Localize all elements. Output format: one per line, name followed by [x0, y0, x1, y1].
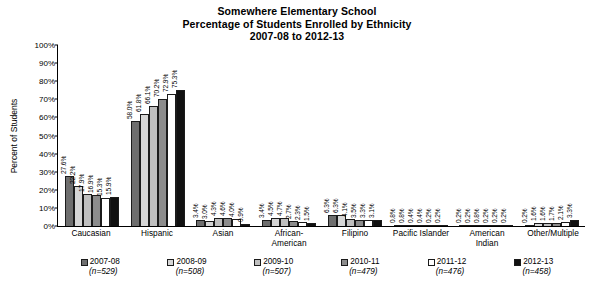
y-axis-tick-label: 100%	[21, 41, 55, 50]
x-axis-label: Asian	[190, 229, 256, 248]
bar[interactable]	[298, 222, 307, 226]
bar-slot: 3.0%	[205, 45, 214, 226]
bar-slot: 3.1%	[373, 45, 382, 226]
legend-swatch-icon	[428, 259, 435, 266]
bar[interactable]	[355, 220, 364, 226]
bar[interactable]	[241, 224, 250, 226]
bar[interactable]	[158, 99, 167, 226]
bar[interactable]	[131, 121, 140, 226]
bar[interactable]	[110, 197, 119, 226]
legend-item[interactable]: 2007-08(n=529)	[57, 257, 144, 277]
bar[interactable]	[561, 222, 570, 226]
bar-group: 0.8%0.8%0.4%0.4%0.2%0.2%	[388, 45, 454, 226]
bar[interactable]	[328, 215, 337, 226]
bar-value-label: 6.3%	[332, 198, 339, 213]
bar[interactable]	[394, 225, 403, 226]
bar[interactable]	[430, 225, 439, 226]
bar[interactable]	[504, 225, 513, 226]
bar[interactable]	[140, 114, 149, 226]
bar[interactable]	[307, 223, 316, 226]
bar[interactable]	[439, 225, 448, 226]
legend-swatch-icon	[341, 259, 348, 266]
legend-item[interactable]: 2009-10(n=507)	[230, 257, 317, 277]
bar[interactable]	[495, 225, 504, 226]
bars: 3.4%3.0%4.3%4.6%4.0%0.9%	[191, 45, 257, 226]
ethnicity-enrollment-bar-chart: Somewhere Elementary School Percentage o…	[0, 0, 594, 295]
legend-item[interactable]: 2012-13(n=458)	[490, 257, 577, 277]
bar[interactable]	[83, 194, 92, 226]
bar-value-label: 0.2%	[454, 208, 461, 223]
bar-value-label: 1.5%	[302, 207, 309, 222]
bar[interactable]	[534, 223, 543, 226]
bar[interactable]	[373, 220, 382, 226]
bar-value-label: 0.2%	[499, 208, 506, 223]
bar-value-label: 4.7%	[275, 201, 282, 216]
bar[interactable]	[543, 223, 552, 226]
bar-slot: 1.6%	[543, 45, 552, 226]
bar-slot: 0.2%	[525, 45, 534, 226]
bar-slot: 0.2%	[439, 45, 448, 226]
bar[interactable]	[421, 225, 430, 226]
bar[interactable]	[205, 221, 214, 226]
bar[interactable]	[92, 195, 101, 226]
y-axis-tick-label: 10%	[21, 203, 55, 212]
bar-slot: 0.4%	[412, 45, 421, 226]
bar[interactable]	[468, 225, 477, 226]
bar[interactable]	[223, 218, 232, 226]
bar[interactable]	[525, 225, 534, 226]
bar[interactable]	[552, 223, 561, 226]
y-axis-tick-mark	[55, 81, 58, 82]
bar[interactable]	[167, 94, 176, 226]
x-axis-label: Other/Multiple	[520, 229, 586, 248]
bar-groups: 27.6%22.2%17.9%16.9%15.3%15.9%58.0%61.8%…	[59, 45, 585, 226]
bar[interactable]	[176, 90, 185, 226]
bar[interactable]	[403, 225, 412, 226]
bars: 27.6%22.2%17.9%16.9%15.3%15.9%	[59, 45, 125, 226]
bars: 0.2%1.6%1.6%1.7%2.1%3.3%	[519, 45, 585, 226]
legend-swatch-icon	[81, 259, 88, 266]
legend-item-label: 2012-13	[523, 257, 553, 267]
bar[interactable]	[262, 220, 271, 226]
bar[interactable]	[364, 220, 373, 226]
bar-slot: 3.4%	[196, 45, 205, 226]
y-axis-tick-mark	[55, 171, 58, 172]
y-axis-tick-label: 0%	[21, 222, 55, 231]
bar[interactable]	[477, 225, 486, 226]
bars: 0.2%0.2%0.8%0.2%0.2%0.2%	[454, 45, 520, 226]
legend-swatch-icon	[167, 259, 174, 266]
bar-value-label: 2.1%	[556, 206, 563, 221]
bar[interactable]	[214, 218, 223, 226]
y-axis-tick-label: 70%	[21, 95, 55, 104]
y-axis-tick-label: 90%	[21, 59, 55, 68]
legend-item[interactable]: 2008-09(n=508)	[144, 257, 231, 277]
y-axis-tick-label: 40%	[21, 149, 55, 158]
y-axis-tick-mark	[55, 117, 58, 118]
legend-item-top: 2012-13	[514, 257, 553, 267]
bar-value-label: 4.1%	[341, 202, 348, 217]
legend-item[interactable]: 2010-11(n=479)	[317, 257, 404, 277]
bar[interactable]	[412, 225, 421, 226]
bars: 3.4%4.5%4.7%2.7%2.3%1.5%	[256, 45, 322, 226]
bar-slot: 4.5%	[271, 45, 280, 226]
bar[interactable]	[196, 220, 205, 226]
bar[interactable]	[346, 219, 355, 226]
bar[interactable]	[101, 198, 110, 226]
bar[interactable]	[570, 220, 579, 226]
bar-slot: 4.3%	[214, 45, 223, 226]
bar-slot: 15.3%	[101, 45, 110, 226]
bar[interactable]	[486, 225, 495, 226]
bar[interactable]	[149, 106, 158, 226]
bar-group: 58.0%61.8%66.1%70.2%72.9%75.3%	[125, 45, 191, 226]
bar[interactable]	[271, 218, 280, 226]
bar-value-label: 22.2%	[69, 166, 76, 184]
bar-slot: 2.3%	[298, 45, 307, 226]
y-axis-title: Percent of Students	[8, 45, 20, 227]
bar[interactable]	[289, 221, 298, 226]
bar[interactable]	[459, 225, 468, 226]
legend-item-label: 2009-10	[263, 257, 293, 267]
y-axis-tick-mark	[55, 63, 58, 64]
bar-value-label: 27.6%	[60, 156, 67, 174]
legend-item[interactable]: 2011-12(n=476)	[404, 257, 491, 277]
bar-value-label: 3.0%	[200, 204, 207, 219]
bar-slot: 4.6%	[223, 45, 232, 226]
